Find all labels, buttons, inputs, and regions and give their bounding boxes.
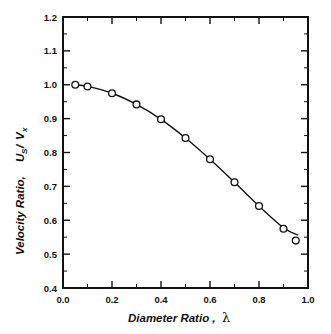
- data-point-marker: [182, 135, 189, 142]
- y-axis-title: Velocity Ratio, U S / V x: [14, 127, 29, 255]
- data-point-marker: [231, 179, 238, 186]
- x-tick-labels: 0.00.20.40.60.81.0: [56, 294, 314, 305]
- x-tick-label: 0.4: [154, 294, 168, 305]
- y-tick-label: 1.0: [44, 79, 57, 90]
- y-tick-label: 0.8: [44, 147, 57, 158]
- data-point-marker: [133, 101, 140, 108]
- axis-ticks: [63, 17, 308, 288]
- lambda-symbol: λ: [222, 310, 230, 325]
- y-tick-label: 0.6: [44, 215, 57, 226]
- x-tick-label: 1.0: [301, 294, 314, 305]
- data-point-marker: [292, 237, 299, 244]
- velocity-ratio-vs-diameter-ratio-chart: 0.00.20.40.60.81.0 0.40.50.60.70.80.91.0…: [0, 0, 331, 334]
- chart-figure: 0.00.20.40.60.81.0 0.40.50.60.70.80.91.0…: [0, 0, 331, 334]
- x-tick-label: 0.6: [203, 294, 216, 305]
- x-axis-title-text: Diameter Ratio ,: [128, 312, 216, 324]
- plot-frame: [63, 17, 308, 288]
- x-axis-title: Diameter Ratio , λ: [128, 310, 230, 325]
- data-curve: [75, 85, 298, 235]
- data-point-marker: [84, 83, 91, 90]
- y-tick-label: 0.4: [44, 283, 58, 294]
- data-point-marker: [109, 90, 116, 97]
- x-tick-label: 0.0: [56, 294, 69, 305]
- data-point-marker: [207, 156, 214, 163]
- x-tick-label: 0.8: [252, 294, 265, 305]
- data-point-marker: [280, 225, 287, 232]
- y-axis-title-v-subscript: x: [20, 127, 29, 133]
- y-tick-labels: 0.40.50.60.70.80.91.01.11.2: [44, 12, 58, 294]
- data-point-marker: [158, 116, 165, 123]
- y-tick-label: 1.2: [44, 12, 57, 23]
- y-tick-label: 0.9: [44, 113, 57, 124]
- y-tick-label: 0.7: [44, 181, 57, 192]
- data-markers: [72, 81, 299, 244]
- x-tick-label: 0.2: [105, 294, 118, 305]
- data-point-marker: [72, 81, 79, 88]
- y-tick-label: 0.5: [44, 249, 58, 260]
- y-axis-title-slash: /: [14, 143, 26, 149]
- y-axis-title-prefix: Velocity Ratio,: [14, 176, 26, 255]
- y-tick-label: 1.1: [44, 45, 58, 56]
- data-point-marker: [256, 203, 263, 210]
